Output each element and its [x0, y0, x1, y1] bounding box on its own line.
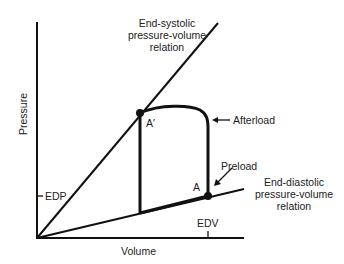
end-systolic-label: End-systolic pressure-volume relation [112, 17, 222, 53]
end-diastolic-label-line2: pressure-volume [246, 188, 342, 200]
end-diastolic-label-line1: End-diastolic [246, 176, 342, 188]
x-axis-label: Volume [121, 245, 156, 257]
end-diastolic-label-line3: relation [246, 200, 342, 212]
edp-label: EDP [45, 190, 67, 202]
edv-label: EDV [197, 217, 219, 229]
end-systolic-label-line1: End-systolic [112, 17, 222, 29]
filling-segment [140, 196, 208, 213]
point-a-marker [204, 192, 212, 200]
y-axis-label: Pressure [17, 89, 29, 139]
afterload-arrow-icon [212, 117, 218, 123]
point-a-prime-marker [136, 109, 144, 117]
end-systolic-label-line2: pressure-volume [112, 29, 222, 41]
end-systolic-label-line3: relation [112, 41, 222, 53]
end-systolic-line [37, 23, 218, 238]
preload-label: Preload [221, 160, 257, 172]
point-a-label: A [193, 181, 200, 193]
end-diastolic-label: End-diastolic pressure-volume relation [246, 176, 342, 212]
afterload-label: Afterload [233, 114, 275, 126]
point-a-prime-label: A′ [146, 117, 155, 129]
